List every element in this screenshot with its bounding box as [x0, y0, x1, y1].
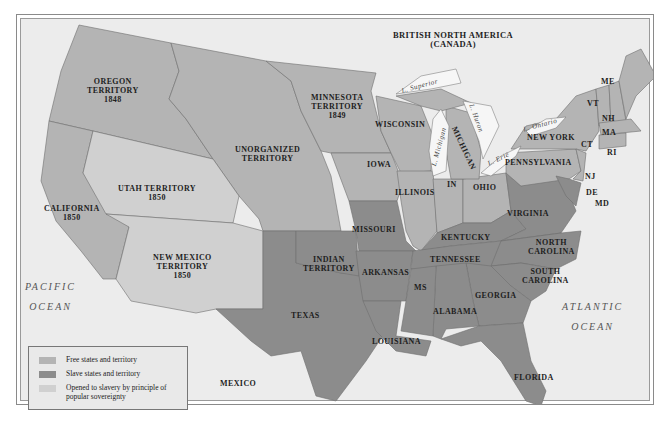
legend-item-slave: Slave states and territory	[39, 369, 140, 378]
label-ohio: OHIO	[473, 183, 496, 192]
label-new-mexico-territory: NEW MEXICO TERRITORY 1850	[153, 253, 212, 280]
label-maine: ME	[601, 77, 615, 86]
label-florida: FLORIDA	[514, 373, 554, 382]
label-indiana: IN	[447, 180, 457, 189]
label-wisconsin: WISCONSIN	[375, 120, 425, 129]
label-vermont: VT	[587, 99, 599, 108]
label-new-york: NEW YORK	[527, 133, 575, 142]
legend-item-popular-sovereignty: Opened to slavery by principle of popula…	[39, 383, 167, 401]
region-florida	[441, 323, 546, 404]
legend-label-popular-sovereignty: Opened to slavery by principle of popula…	[66, 383, 167, 401]
label-illinois: ILLINOIS	[395, 188, 435, 197]
label-missouri: MISSOURI	[352, 225, 396, 234]
label-new-hampshire: NH	[602, 114, 615, 123]
label-arkansas: ARKANSAS	[362, 268, 409, 277]
label-delaware: DE	[586, 188, 598, 197]
label-pennsylvania: PENNSYLVANIA	[505, 158, 572, 167]
label-new-jersey: NJ	[585, 172, 596, 181]
label-kentucky: KENTUCKY	[441, 233, 490, 242]
label-massachusetts: MA	[602, 128, 616, 137]
label-south-carolina: SOUTH CAROLINA	[522, 267, 569, 285]
label-louisiana: LOUISIANA	[372, 337, 421, 346]
region-maine	[619, 49, 653, 119]
legend-label-slave: Slave states and territory	[66, 369, 140, 378]
label-texas: TEXAS	[291, 311, 320, 320]
label-rhode-island: RI	[607, 148, 617, 157]
label-alabama: ALABAMA	[433, 307, 477, 316]
label-north-carolina: NORTH CAROLINA	[528, 238, 575, 256]
label-iowa: IOWA	[367, 160, 391, 169]
label-georgia: GEORGIA	[475, 291, 516, 300]
label-tennessee: TENNESSEE	[430, 255, 481, 264]
label-maryland: MD	[595, 199, 609, 208]
label-british-north-america: BRITISH NORTH AMERICA (CANADA)	[393, 31, 513, 49]
map-legend: Free states and territory Slave states a…	[28, 346, 188, 410]
label-minnesota-territory: MINNESOTA TERRITORY 1849	[311, 93, 363, 120]
label-virginia: VIRGINIA	[507, 209, 549, 218]
legend-label-free: Free states and territory	[66, 355, 137, 364]
label-unorganized-territory: UNORGANIZED TERRITORY	[235, 145, 300, 163]
legend-swatch-slave	[39, 371, 56, 378]
legend-item-free: Free states and territory	[39, 355, 137, 364]
legend-swatch-free	[39, 357, 56, 364]
label-mexico: MEXICO	[220, 379, 256, 388]
label-pacific-ocean: PACIFIC OCEAN	[25, 277, 76, 317]
label-atlantic-ocean: ATLANTIC OCEAN	[562, 297, 623, 337]
label-california: CALIFORNIA 1850	[44, 204, 100, 222]
label-indian-territory: INDIAN TERRITORY	[303, 255, 355, 273]
label-utah-territory: UTAH TERRITORY 1850	[118, 184, 196, 202]
label-connecticut: CT	[581, 140, 593, 149]
label-oregon-territory: OREGON TERRITORY 1848	[87, 77, 139, 104]
label-mississippi: MS	[414, 283, 427, 292]
legend-swatch-popular-sovereignty	[39, 385, 56, 392]
